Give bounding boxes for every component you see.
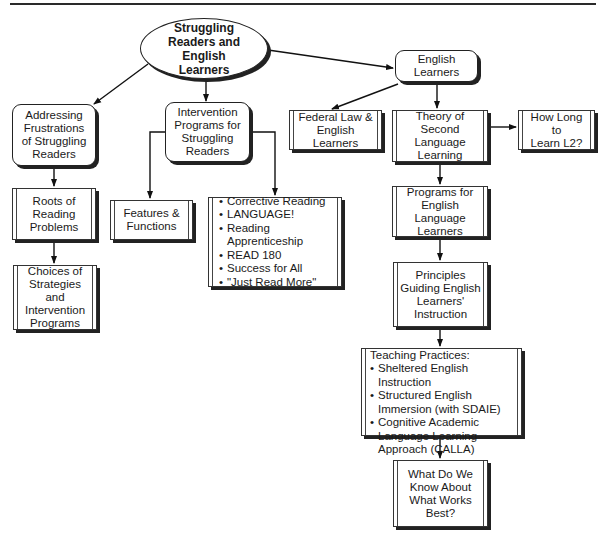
addressing-frustrations-label: Addressing Frustrations of Struggling Re… [16,109,93,161]
roots-node: Roots of Reading Problems [12,188,96,240]
root-node-label: Struggling Readers and English Learners [141,21,267,77]
english-learners-node: English Learners [395,50,478,82]
list-item: Sheltered English Instruction [370,362,521,389]
theory-node: Theory of Second Language Learning [392,110,488,162]
list-item: Cognitive Academic Language Learning App… [370,416,521,457]
list-item: Corrective Reading [219,195,341,209]
list-item: READ 180 [219,249,341,263]
teaching-practices-heading: Teaching Practices: [362,349,470,362]
federal-law-label: Federal Law & English Learners [290,111,381,150]
programs-list-node: Corrective Reading LANGUAGE! Reading App… [208,197,342,287]
programs-ell-node: Programs for English Language Learners [392,186,488,237]
addressing-frustrations-node: Addressing Frustrations of Struggling Re… [12,104,96,166]
features-functions-node: Features & Functions [110,200,193,240]
choices-label: Choices of Strategies and Intervention P… [14,265,96,330]
root-node: Struggling Readers and English Learners [140,18,268,79]
programs-list: Corrective Reading LANGUAGE! Reading App… [209,195,341,290]
list-item: "Just Read More" [219,276,341,290]
teaching-practices-list: Sheltered English Instruction Structured… [362,362,521,457]
theory-label: Theory of Second Language Learning [393,110,487,162]
choices-node: Choices of Strategies and Intervention P… [13,265,97,330]
english-learners-label: English Learners [408,53,465,79]
intervention-programs-node: Intervention Programs for Struggling Rea… [165,102,250,162]
list-item: Success for All [219,262,341,276]
principles-label: Principles Guiding English Learners' Ins… [394,269,487,321]
features-functions-label: Features & Functions [117,207,185,233]
how-long-label: How Long to Learn L2? [519,111,594,150]
principles-node: Principles Guiding English Learners' Ins… [393,262,488,327]
intervention-programs-label: Intervention Programs for Struggling Rea… [168,106,246,158]
what-works-node: What Do We Know About What Works Best? [393,460,488,527]
federal-law-node: Federal Law & English Learners [289,110,382,150]
teaching-practices-node: Teaching Practices: Sheltered English In… [361,348,522,436]
how-long-node: How Long to Learn L2? [518,110,595,150]
list-item: LANGUAGE! [219,208,341,222]
programs-ell-label: Programs for English Language Learners [393,186,487,238]
what-works-label: What Do We Know About What Works Best? [402,468,479,520]
list-item: Structured English Immersion (with SDAIE… [370,389,521,416]
list-item: Reading Apprenticeship [219,222,341,249]
roots-label: Roots of Reading Problems [24,195,85,234]
